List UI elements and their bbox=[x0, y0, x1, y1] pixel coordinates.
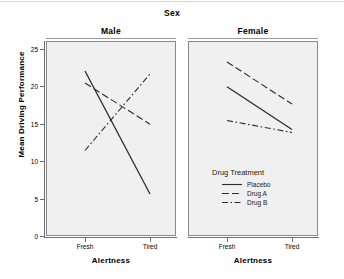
y-tick-mark bbox=[40, 49, 44, 50]
legend-title: Drug Treatment bbox=[210, 168, 302, 177]
x-tick-mark bbox=[227, 238, 228, 242]
legend-item-drug-b: Drug B bbox=[210, 198, 302, 207]
y-tick-label: 25 bbox=[12, 46, 38, 53]
y-tick-label: 5 bbox=[12, 196, 38, 203]
legend-item-drug-a: Drug A bbox=[210, 189, 302, 198]
y-tick-mark bbox=[40, 161, 44, 162]
legend-swatch-drug-b bbox=[222, 199, 242, 206]
profile-plot-figure: Sex Male Female Mean Driving Performance… bbox=[0, 0, 344, 279]
legend-item-placebo: Placebo bbox=[210, 180, 302, 189]
series-line-male-drug-b bbox=[85, 74, 150, 151]
legend-swatch-placebo bbox=[222, 181, 242, 188]
x-tick-mark bbox=[150, 238, 151, 242]
y-tick-mark bbox=[40, 124, 44, 125]
x-tick-label: Tired bbox=[128, 243, 172, 250]
series-line-female-drug-a bbox=[227, 62, 292, 104]
legend: Drug Treatment Placebo Drug A Drug B bbox=[210, 168, 302, 207]
legend-swatch-drug-a bbox=[222, 190, 242, 197]
x-tick-mark bbox=[292, 238, 293, 242]
x-tick-label: Fresh bbox=[205, 243, 249, 250]
legend-label-drug-a: Drug A bbox=[247, 190, 267, 197]
x-tick-mark bbox=[85, 238, 86, 242]
y-tick-label: 15 bbox=[12, 121, 38, 128]
y-tick-label: 20 bbox=[12, 83, 38, 90]
legend-label-drug-b: Drug B bbox=[247, 199, 267, 206]
legend-label-placebo: Placebo bbox=[247, 181, 271, 188]
y-tick-mark bbox=[40, 236, 44, 237]
y-tick-label: 0 bbox=[12, 233, 38, 240]
series-line-female-drug-b bbox=[227, 121, 292, 133]
y-tick-mark bbox=[40, 199, 44, 200]
y-tick-label: 10 bbox=[12, 158, 38, 165]
series-line-male-drug-a bbox=[85, 83, 150, 124]
y-tick-mark bbox=[40, 86, 44, 87]
x-tick-label: Tired bbox=[270, 243, 314, 250]
x-tick-label: Fresh bbox=[63, 243, 107, 250]
series-line-female-placebo bbox=[227, 87, 292, 130]
